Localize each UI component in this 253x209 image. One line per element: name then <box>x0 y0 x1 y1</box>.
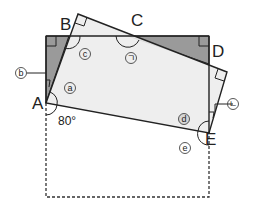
circle-label-e: e <box>180 143 191 154</box>
svg-text:a: a <box>67 83 72 93</box>
svg-text:d: d <box>181 114 186 124</box>
circle-label-nieun: ㄴ <box>228 99 239 110</box>
vertex-label-D: D <box>212 42 224 61</box>
vertex-label-E: E <box>205 130 216 149</box>
angle-arc-80 <box>46 105 57 115</box>
svg-text:ㄴ: ㄴ <box>229 99 237 109</box>
circle-label-b: b <box>16 68 27 79</box>
diagram-canvas: a b c ㄱ d e ㄴ A B C D E 80° <box>0 0 253 209</box>
circle-label-d: d <box>179 114 190 125</box>
svg-text:b: b <box>18 68 23 78</box>
svg-text:e: e <box>182 143 187 153</box>
vertex-label-A: A <box>32 94 44 113</box>
svg-text:c: c <box>83 49 88 59</box>
angle-value-80: 80° <box>58 114 76 128</box>
vertex-label-B: B <box>60 15 71 34</box>
circle-label-giyeok: ㄱ <box>126 53 137 64</box>
svg-text:ㄱ: ㄱ <box>127 53 135 63</box>
vertex-label-C: C <box>131 11 143 30</box>
